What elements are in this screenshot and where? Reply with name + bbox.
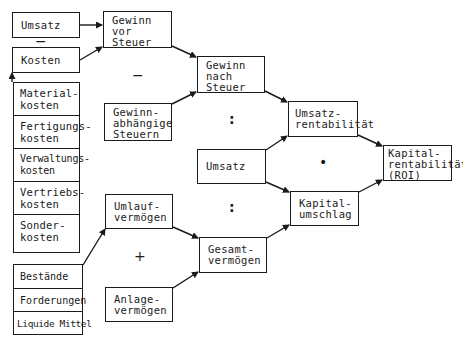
node-kapitalumschlag: Kapital- umschlag xyxy=(290,191,359,226)
operator-plus: + xyxy=(134,249,146,263)
node-materialkosten: Material- kosten xyxy=(13,82,80,116)
roi-tree-diagram: Umsatz − Kosten Material- kosten Fertigu… xyxy=(0,0,463,339)
node-forderungen: Forderungen xyxy=(13,288,83,312)
node-gewinn-nach-steuer: Gewinn nach Steuer xyxy=(197,56,265,93)
node-liquide-mittel: Liquide Mittel xyxy=(13,311,83,335)
node-umsatzrentabilitaet: Umsatz- rentabilität xyxy=(288,101,358,137)
node-fertigungskosten: Fertigungs- kosten xyxy=(13,115,80,149)
operator-minus-kosten: − xyxy=(35,34,47,48)
node-anlagevermoegen: Anlage- vermögen xyxy=(105,287,173,322)
node-sonderkosten: Sonder- kosten xyxy=(13,214,80,253)
node-verwaltungskosten: Verwaltungs- kosten xyxy=(13,148,80,182)
operator-multiply: • xyxy=(319,155,327,169)
operator-divide-vermoegen: : xyxy=(229,200,235,214)
node-umsatz-mid: Umsatz xyxy=(197,149,266,184)
node-gewinn-vor-steuer: Gewinn vor Steuer xyxy=(103,11,172,48)
node-kosten: Kosten xyxy=(12,47,80,73)
node-kapitalrentabilitaet-roi: Kapital- rentabilität (ROI) xyxy=(383,145,452,181)
node-vertriebskosten: Vertriebs- kosten xyxy=(13,181,80,215)
operator-minus-steuern: − xyxy=(132,68,144,82)
operator-divide-gewinn: : xyxy=(229,112,235,126)
node-bestaende: Bestände xyxy=(13,264,83,289)
node-umlaufvermoegen: Umlauf- vermögen xyxy=(105,194,173,229)
node-gewinnabhaengige-steuern: Gewinn- abhängige Steuern xyxy=(104,103,172,141)
node-gesamtvermoegen: Gesamt- vermögen xyxy=(199,237,267,273)
